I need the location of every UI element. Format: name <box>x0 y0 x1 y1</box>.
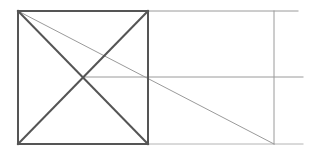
geometric-diagram <box>0 0 315 157</box>
geometry-canvas <box>0 0 315 157</box>
diagram-background <box>0 0 315 157</box>
